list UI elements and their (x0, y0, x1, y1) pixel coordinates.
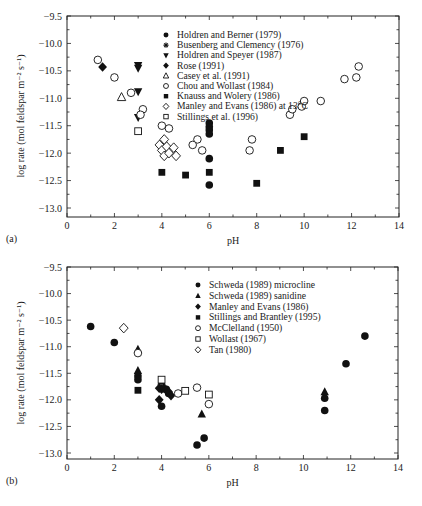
data-point (205, 130, 213, 138)
y-tick-label: −12.5 (39, 421, 62, 432)
x-tick-label: 0 (65, 220, 70, 231)
y-tick-label: −10.5 (39, 315, 62, 326)
open-circle-marker-icon (164, 84, 169, 89)
data-point (277, 147, 284, 154)
data-point (193, 384, 201, 392)
filled-circle-marker-icon (196, 283, 201, 288)
y-tick-label: −9.5 (44, 262, 62, 273)
x-tick-label: 4 (159, 462, 164, 473)
data-point (321, 387, 329, 395)
data-point (134, 349, 142, 357)
data-point (341, 75, 349, 83)
chart-panel-a: 02468101214pH−9.5−10.0−10.5−11.0−11.5−12… (6, 11, 404, 247)
x-tick-label: 8 (254, 220, 259, 231)
series-6 (119, 323, 128, 333)
feldspar-dissolution-charts: 02468101214pH−9.5−10.0−10.5−11.0−11.5−12… (0, 0, 422, 506)
open-diamond-marker-icon (163, 103, 169, 109)
x-tick-label: 10 (299, 220, 309, 231)
data-point (205, 400, 213, 408)
data-point (206, 169, 213, 176)
data-point (355, 63, 363, 71)
y-tick-label: −12.0 (39, 148, 62, 159)
x-tick-label: 14 (393, 462, 403, 473)
data-point (134, 366, 142, 374)
filled-triangle-down-marker-icon (163, 53, 168, 58)
data-point (135, 128, 142, 135)
data-point (158, 169, 165, 176)
legend-item: Stillings et al. (1996) (164, 111, 258, 123)
x-tick-label: 6 (206, 462, 211, 473)
x-tick-label: 8 (254, 462, 259, 473)
data-point (117, 93, 125, 101)
x-tick-label: 12 (347, 220, 357, 231)
y-tick-label: −11.0 (39, 93, 62, 104)
data-point (321, 394, 329, 402)
filled-square-marker-icon (196, 315, 200, 319)
legend-label: Stillings et al. (1996) (177, 111, 258, 123)
open-square-marker-icon (164, 114, 168, 118)
x-tick-label: 2 (112, 220, 117, 231)
data-point (137, 111, 145, 119)
y-tick-label: −12.5 (39, 175, 62, 186)
data-point (94, 56, 102, 64)
y-axis-title: log rate (mol feldspar m⁻² s⁻¹) (15, 55, 27, 178)
y-axis: −9.5−10.0−10.5−11.0−11.5−12.0−12.5−13.0l… (15, 262, 398, 459)
data-point (119, 323, 128, 333)
legend: Holdren and Berner (1979)Busenberg and C… (163, 29, 308, 123)
data-point (127, 89, 135, 97)
y-tick-label: −11.0 (39, 341, 62, 352)
data-point (158, 376, 165, 383)
x-tick-label: 6 (207, 220, 212, 231)
data-point (205, 181, 213, 189)
y-tick-label: −13.0 (39, 203, 62, 214)
panel-label: (a) (6, 233, 17, 245)
series-4 (117, 93, 125, 101)
series-6 (158, 133, 307, 186)
x-axis-title: pH (227, 235, 239, 246)
y-tick-label: −12.0 (39, 394, 62, 405)
data-point (246, 147, 254, 155)
data-point (193, 441, 201, 449)
data-point (342, 360, 350, 368)
x-tick-label: 12 (346, 462, 356, 473)
data-point (134, 65, 142, 73)
y-tick-label: −9.5 (44, 11, 62, 22)
data-point (134, 376, 142, 384)
data-point (111, 74, 119, 82)
x-axis-title: pH (226, 477, 238, 488)
data-point (189, 141, 197, 149)
data-point (253, 180, 260, 187)
chart-panel-b: 02468101214pH−9.5−10.0−10.5−11.0−11.5−12… (6, 262, 403, 489)
series-4 (134, 349, 213, 408)
data-point (174, 390, 182, 398)
data-point (135, 387, 142, 394)
data-point (200, 434, 208, 442)
open-diamond-marker-icon (195, 347, 201, 353)
filled-diamond-marker-icon (163, 62, 169, 68)
open-circle-marker-icon (196, 326, 201, 331)
y-tick-label: −10.0 (39, 38, 62, 49)
series-8 (135, 128, 142, 135)
filled-circle-marker-icon (164, 33, 169, 38)
data-point (198, 147, 206, 155)
data-point (165, 125, 173, 133)
data-point (182, 172, 189, 179)
y-tick-label: −10.5 (39, 65, 62, 76)
y-tick-label: −10.0 (39, 288, 62, 299)
data-point (205, 155, 213, 163)
x-tick-label: 4 (159, 220, 164, 231)
open-square-marker-icon (196, 337, 200, 341)
data-point (198, 410, 206, 418)
filled-square-marker-icon (164, 94, 168, 98)
y-axis-title: log rate (mol feldspar m⁻² s⁻¹) (15, 302, 27, 425)
filled-diamond-marker-icon (195, 303, 201, 309)
data-point (301, 133, 308, 140)
panel-label: (b) (6, 475, 18, 487)
x-tick-label: 0 (65, 462, 70, 473)
filled-triangle-up-marker-icon (195, 293, 200, 298)
y-tick-label: −11.5 (39, 368, 62, 379)
x-tick-label: 14 (394, 220, 404, 231)
legend-label: Tan (1980) (209, 344, 251, 356)
data-point (110, 339, 118, 347)
asterisk-marker-icon (163, 43, 168, 48)
